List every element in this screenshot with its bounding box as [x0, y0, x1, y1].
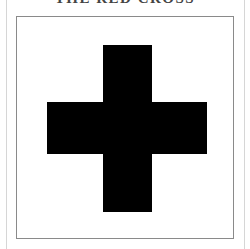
document-title: THE RED CROSS: [0, 0, 250, 6]
page-margin-rule-left: [6, 0, 7, 249]
cross-horizontal-bar: [47, 102, 207, 154]
page-margin-rule-right: [244, 0, 245, 249]
